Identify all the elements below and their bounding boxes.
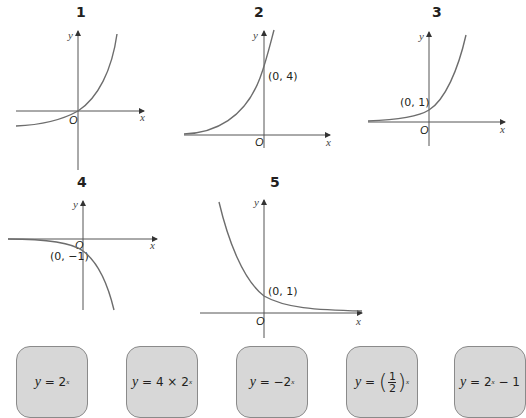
point-label: (0, 4) <box>268 70 298 83</box>
card-eq: = 4 × <box>138 375 181 389</box>
y-axis-label: y <box>252 29 258 41</box>
left-paren: ( <box>379 371 388 393</box>
card-eq: = <box>41 375 59 389</box>
curve <box>184 30 274 134</box>
x-axis-label: x <box>325 136 331 148</box>
equation-card-4[interactable]: y = (12)x <box>346 346 418 418</box>
card-eq: = <box>361 375 379 389</box>
origin-label: O <box>255 136 264 148</box>
y-axis-label: y <box>253 196 259 208</box>
card-eq: = <box>466 375 484 389</box>
graph-number: 1 <box>76 4 86 20</box>
equation-card-1[interactable]: y = 2x <box>16 346 88 418</box>
fraction-numerator: 1 <box>389 371 396 382</box>
point-label: (0, 1) <box>268 285 298 298</box>
origin-label: O <box>256 315 265 327</box>
graph-5: 5 y x O (0, 1) <box>200 174 362 338</box>
card-eq: = − <box>256 375 284 389</box>
graphs-canvas: 1 y x O 2 y x O (0, 4) 3 y x O (0, 1) 4 … <box>0 0 515 346</box>
y-axis-label: y <box>67 29 73 41</box>
origin-label: O <box>69 114 78 126</box>
curve <box>16 34 117 126</box>
right-paren: ) <box>397 371 406 393</box>
origin-label: O <box>420 124 429 136</box>
card-exp: x <box>291 378 294 386</box>
card-exp: x <box>406 378 409 386</box>
fraction: 12 <box>388 371 396 394</box>
graph-number: 3 <box>432 4 442 20</box>
card-exp: x <box>66 378 69 386</box>
x-axis-label: x <box>499 123 505 135</box>
graph-2: 2 y x O (0, 4) <box>184 4 331 148</box>
card-exp: x <box>189 378 192 386</box>
equation-card-3[interactable]: y = −2x <box>236 346 308 418</box>
x-axis-label: x <box>139 111 145 123</box>
graph-number: 2 <box>254 4 264 20</box>
x-axis-label: x <box>149 239 155 251</box>
graph-number: 5 <box>270 174 280 190</box>
card-tail: − 1 <box>495 375 520 389</box>
equation-card-2[interactable]: y = 4 × 2x <box>126 346 198 418</box>
equation-card-5[interactable]: y = 2x − 1 <box>454 346 526 418</box>
graph-3: 3 y x O (0, 1) <box>368 4 505 146</box>
card-base: 2 <box>181 375 189 389</box>
graph-4: 4 y x O (0, −1) <box>8 174 157 310</box>
y-axis-label: y <box>418 30 424 42</box>
point-label: (0, 1) <box>400 96 430 109</box>
card-base: 2 <box>484 375 492 389</box>
graph-1: 1 y x O <box>16 4 145 170</box>
fraction-denominator: 2 <box>389 383 396 394</box>
x-axis-label: x <box>355 315 361 327</box>
graph-number: 4 <box>77 174 87 190</box>
point-label: (0, −1) <box>50 250 89 263</box>
y-axis-label: y <box>72 198 78 210</box>
